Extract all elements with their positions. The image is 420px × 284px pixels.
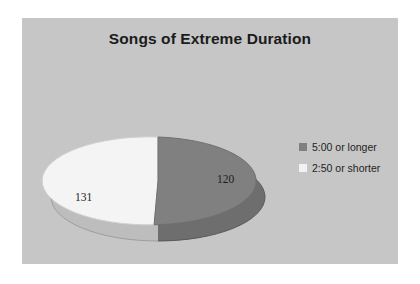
chart-legend: 5:00 or longer 2:50 or shorter <box>299 136 399 178</box>
chart-panel: Songs of Extreme Duration <box>22 18 398 264</box>
legend-item-label: 2:50 or shorter <box>312 162 380 174</box>
data-label-dark-slice: 120 <box>217 173 234 185</box>
pie-chart-graphic <box>22 63 292 253</box>
legend-item-2-50-or-shorter[interactable]: 2:50 or shorter <box>299 157 399 178</box>
chart-title: Songs of Extreme Duration <box>22 30 398 48</box>
legend-item-5-00-or-longer[interactable]: 5:00 or longer <box>299 136 399 157</box>
chart-screenshot: Songs of Extreme Duration <box>0 0 420 284</box>
legend-item-label: 5:00 or longer <box>312 141 377 153</box>
data-label-light-slice: 131 <box>75 191 92 203</box>
square-swatch-icon <box>299 143 307 151</box>
square-swatch-icon <box>299 164 307 172</box>
pie-plot-area: 120 131 <box>22 63 292 253</box>
